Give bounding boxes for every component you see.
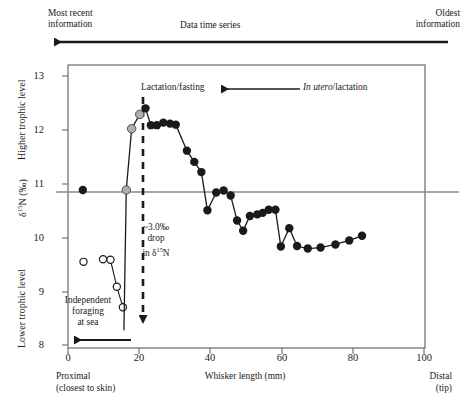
data-point-filled (316, 243, 324, 251)
data-point-filled (271, 206, 279, 214)
chart-svg (0, 0, 464, 417)
data-point-filled (239, 227, 247, 235)
series-line (124, 108, 362, 330)
series-line (103, 259, 123, 307)
data-point-filled (172, 120, 180, 128)
data-point-filled (233, 216, 241, 224)
data-point-open (113, 283, 120, 290)
data-point-filled (358, 232, 366, 240)
data-series-1 (99, 256, 126, 311)
data-point-open (107, 256, 114, 263)
data-point-filled (246, 212, 254, 220)
data-point-filled (277, 242, 285, 250)
data-point-filled (197, 168, 205, 176)
data-point-gray (136, 110, 144, 118)
data-point-filled (293, 242, 301, 250)
data-point-filled (304, 244, 312, 252)
data-point-gray (122, 186, 130, 194)
data-series-layer (79, 104, 367, 330)
data-point-open (119, 304, 126, 311)
data-series-3 (122, 104, 366, 330)
data-point-open (80, 258, 87, 265)
y-axis-ticks (62, 76, 68, 345)
data-point-filled (203, 206, 211, 214)
data-point-filled (183, 146, 191, 154)
data-point-gray (127, 125, 135, 133)
data-point-filled (79, 186, 87, 194)
data-point-filled (219, 186, 227, 194)
x-axis-ticks (68, 348, 424, 354)
data-point-filled (331, 240, 339, 248)
data-point-filled (141, 104, 149, 112)
figure-container: Most recent information Data time series… (0, 0, 464, 417)
data-point-filled (212, 188, 220, 196)
data-series-2 (79, 186, 87, 194)
data-point-filled (226, 191, 234, 199)
data-point-open (99, 256, 106, 263)
data-point-filled (285, 224, 293, 232)
data-point-filled (190, 158, 198, 166)
data-point-filled (345, 236, 353, 244)
data-series-0 (80, 258, 87, 265)
